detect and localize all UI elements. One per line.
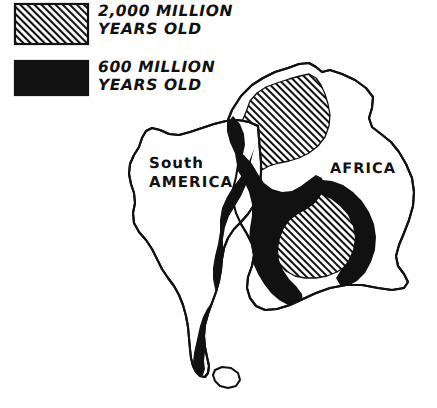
map-label-africa: AFRICA	[330, 160, 396, 178]
solid-black-swatch	[15, 61, 88, 95]
map-group	[129, 63, 414, 388]
legend-label-mobile-belt: 600 MILLION YEARS OLD	[98, 58, 215, 95]
gondwana-figure	[0, 0, 437, 408]
diagonal-hatch-swatch	[15, 4, 88, 44]
map-label-south-america: South AMERICA	[149, 154, 233, 192]
falkland-block	[213, 367, 240, 388]
legend-group	[15, 4, 88, 95]
legend-label-craton: 2,000 MILLION YEARS OLD	[98, 2, 233, 39]
